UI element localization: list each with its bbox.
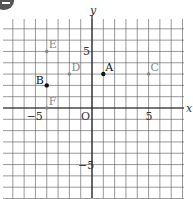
y-tick-label: 5: [83, 45, 90, 58]
y-axis-label: y: [89, 4, 97, 17]
x-tick-label: 5: [146, 110, 153, 123]
coordinate-plane: x y O −555−5 ABCDEF: [0, 0, 193, 199]
origin-label: O: [81, 110, 90, 123]
point-label-d: D: [71, 61, 80, 74]
point-label-a: A: [104, 61, 114, 74]
grid-lines: [3, 19, 184, 199]
x-tick-label: −5: [26, 110, 42, 123]
y-tick-label: −5: [78, 159, 94, 172]
point-label-b: B: [36, 74, 44, 87]
x-axis-label: x: [186, 102, 193, 115]
point-b: [45, 83, 49, 87]
point-label-e: E: [49, 38, 57, 51]
point-label-c: C: [151, 61, 159, 74]
point-label-f: F: [49, 95, 57, 108]
